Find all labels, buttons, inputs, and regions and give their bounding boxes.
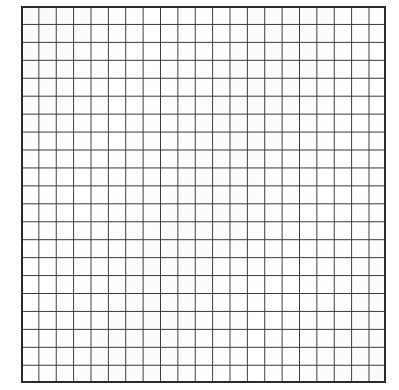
- screenshot-canvas: [0, 0, 399, 390]
- graph-paper-grid: [21, 6, 386, 383]
